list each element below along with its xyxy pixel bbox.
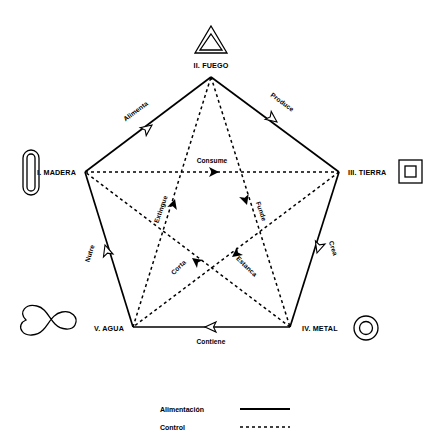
node-label-madera: I. MADERA — [37, 168, 76, 177]
controlling-cycle-edges — [85, 77, 339, 327]
inner-label-estanca: Estanca — [235, 255, 259, 278]
edge-label-contiene: Contiene — [196, 338, 225, 345]
circle-icon — [354, 316, 378, 340]
diagram-canvas: II. FUEGO III. TIERRA IV. METAL V. AGUA … — [0, 0, 440, 447]
arrowhead-fuego-tierra — [265, 111, 280, 126]
edge-label-alimenta: Alimenta — [122, 100, 149, 123]
wuxing-diagram: II. FUEGO III. TIERRA IV. METAL V. AGUA … — [0, 0, 440, 447]
arrowhead-madera-tierra — [209, 167, 219, 177]
node-label-tierra: III. TIERRA — [348, 168, 386, 177]
node-label-fuego: II. FUEGO — [194, 61, 229, 70]
edge-label-produce: Produce — [270, 91, 296, 113]
controlling-cycle-arrowheads — [167, 167, 251, 268]
legend: Alimentación Control — [160, 406, 290, 431]
edge-fuego-metal — [211, 77, 290, 327]
edge-agua-fuego — [133, 77, 211, 327]
node-label-agua: V. AGUA — [94, 324, 124, 333]
inner-label-extingue: Extingue — [153, 194, 170, 224]
inner-label-consume: Consume — [197, 157, 228, 164]
arrowhead-madera-fuego — [140, 121, 155, 136]
square-icon — [399, 160, 422, 183]
generating-cycle-edges — [85, 77, 339, 327]
inner-label-corta: Corta — [169, 258, 187, 276]
legend-label-control: Control — [160, 424, 185, 431]
edge-madera-fuego — [85, 77, 211, 172]
edge-label-crea: Crea — [328, 240, 339, 257]
triangle-icon — [195, 26, 227, 53]
arrowhead-fuego-metal — [239, 194, 252, 207]
generating-cycle-arrowheads — [100, 111, 325, 332]
edge-metal-madera — [85, 172, 290, 327]
edge-label-nutre: Nutre — [84, 243, 96, 262]
arrowhead-metal-madera — [189, 254, 203, 268]
legend-label-alimentacion: Alimentación — [160, 406, 204, 413]
node-label-metal: IV. METAL — [302, 324, 338, 333]
inner-label-funde: Funde — [255, 200, 268, 222]
wave-icon — [21, 305, 76, 335]
